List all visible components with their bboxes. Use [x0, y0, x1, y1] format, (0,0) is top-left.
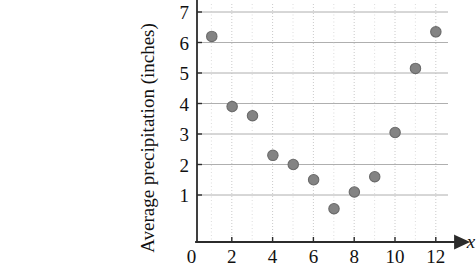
data-point-group — [207, 27, 441, 214]
x-tick-label-0: 0 — [187, 246, 197, 267]
x-tick-label-6: 6 — [309, 246, 319, 267]
y-tick-label-1: 1 — [180, 185, 190, 206]
data-point — [349, 187, 359, 197]
x-tick-label-4: 4 — [268, 246, 278, 267]
y-tick-label-2: 2 — [180, 155, 190, 176]
x-tick-label-12: 12 — [426, 246, 445, 267]
data-point — [308, 175, 318, 185]
y-tick-label-3: 3 — [180, 124, 190, 145]
data-point — [410, 63, 420, 73]
x-axis-variable-label: x — [466, 231, 476, 252]
data-point — [329, 204, 339, 214]
x-tick-label-2: 2 — [227, 246, 237, 267]
vertical-gridlines — [211, 4, 435, 241]
y-tick-label-6: 6 — [180, 33, 190, 54]
x-tick-labels: 0 2 4 6 8 10 12 — [187, 246, 446, 267]
data-point — [288, 159, 298, 169]
y-tick-labels: 1 2 3 4 5 6 7 — [180, 2, 190, 206]
data-point — [370, 172, 380, 182]
data-point — [268, 150, 278, 160]
data-point — [207, 31, 217, 41]
data-point — [247, 111, 257, 121]
x-tick-label-8: 8 — [349, 246, 359, 267]
data-point — [227, 101, 237, 111]
y-tick-label-5: 5 — [180, 63, 190, 84]
y-tick-label-4: 4 — [180, 94, 190, 115]
plot-area-svg: 0 2 4 6 8 10 12 1 2 3 4 5 6 7 x — [0, 0, 476, 276]
y-tick-label-7: 7 — [180, 2, 190, 23]
data-point — [390, 127, 400, 137]
x-tick-label-10: 10 — [386, 246, 405, 267]
scatter-plot-figure: Average precipitation (inches) — [0, 0, 476, 276]
data-point — [431, 27, 441, 37]
